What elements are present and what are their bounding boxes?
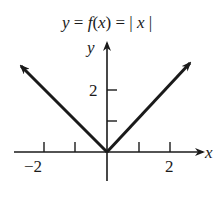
graph-title: y = f(x) = | x | — [60, 13, 152, 32]
x-axis-label: x — [204, 143, 213, 162]
x-tick-label-2: 2 — [165, 157, 174, 176]
y-tick-label-2: 2 — [89, 81, 98, 100]
graph-right-ray — [107, 63, 190, 152]
graph-left-ray — [21, 66, 107, 152]
x-tick-label-neg2: −2 — [24, 157, 42, 176]
y-axis-label: y — [85, 38, 95, 57]
abs-value-graph: y = f(x) = | x | x y −2 2 2 — [0, 0, 218, 216]
y-ticks — [107, 90, 117, 121]
